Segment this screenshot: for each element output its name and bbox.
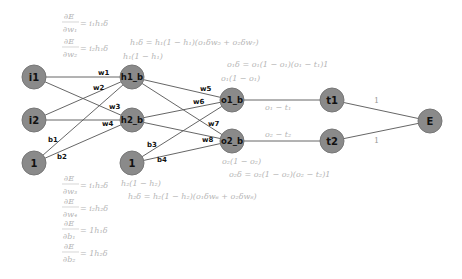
node-label: h1_b [121,72,143,82]
rhs: = i₁h₁δ [80,19,108,28]
formula-dE-db1: ∂E ∂b₁ = 1h₁δ [62,219,108,241]
label-b3: b3 [147,141,157,149]
numerator: ∂E [64,37,74,46]
rhs: = i₂h₁δ [80,44,108,53]
formula-o1-delta: o₁δ = o₁(1 − o₁)(o₁ − t₁)1 [227,60,328,69]
label-w6: w6 [193,98,204,106]
edge-t2-E [332,121,430,141]
denominator: ∂w₁ [63,25,77,34]
label-t2-E-weight: 1 [374,136,379,145]
rhs: = i₁h₂δ [80,181,108,190]
gradient-formulas-top: ∂E ∂w₁ = i₁h₁δ ∂E ∂w₂ = i₂h₁δ [62,12,108,59]
denominator: ∂w₃ [63,187,77,196]
denominator: ∂w₂ [63,50,77,59]
label-b2: b2 [57,153,67,161]
numerator: ∂E [64,197,74,206]
node-label: E [427,116,434,127]
label-w7: w7 [208,120,219,128]
edge-h1-o1 [132,77,232,100]
formula-o2-deriv: o₂(1 − o₂) [222,157,261,166]
denominator: ∂b₂ [63,255,75,264]
node-E: E [418,109,442,133]
network-diagram: w1 w2 w3 w4 b1 b2 w5 w6 w7 w8 b3 b4 o₁ −… [0,0,462,279]
formula-dE-dw1: ∂E ∂w₁ = i₁h₁δ [62,12,108,34]
node-label: 1 [129,158,136,169]
rhs: = 1h₁δ [80,226,108,235]
label-w8: w8 [202,136,213,144]
edge-h2-o1 [132,100,232,120]
label-t1-E-weight: 1 [374,96,379,105]
node-t2: t2 [320,129,344,153]
label-b1: b1 [48,136,58,144]
formula-dE-db2: ∂E ∂b₂ = 1h₂δ [62,242,108,264]
node-o2: o2_b [220,129,244,153]
denominator: ∂w₄ [63,210,77,219]
gradient-formulas-bottom: ∂E ∂w₃ = i₁h₂δ ∂E ∂w₄ = i₂h₂δ ∂E ∂b₁ = 1… [62,174,108,264]
formula-h1-deriv: h₁(1 − h₁) [123,52,163,61]
denominator: ∂b₁ [63,232,75,241]
node-label: i1 [29,72,39,83]
label-w3: w3 [109,103,120,111]
formula-dE-dw3: ∂E ∂w₃ = i₁h₂δ [62,174,108,196]
node-i1: i1 [22,65,46,89]
numerator: ∂E [64,174,74,183]
node-label: t2 [326,136,338,147]
node-h1: h1_b [120,65,144,89]
node-h2: h2_b [120,108,144,132]
formula-o2-delta: o₂δ = o₂(1 − o₂)(o₂ − t₂)1 [229,170,330,179]
rhs: = 1h₂δ [80,249,108,258]
node-label: i2 [29,115,39,126]
node-label: o1_b [221,95,243,105]
node-t1: t1 [320,88,344,112]
rhs: = i₂h₂δ [80,204,108,213]
edge-t1-E [332,100,430,121]
node-i2: i2 [22,108,46,132]
formula-h2-delta: h₂δ = h₂(1 − h₂)(o₁δw₆ + o₂δw₈) [128,192,257,201]
node-label: o2_b [221,136,243,146]
formula-h1-delta: h₁δ = h₁(1 − h₁)(o₁δw₅ + o₂δw₇) [130,38,259,47]
label-w2: w2 [93,84,104,92]
formula-o1-deriv: o₁(1 − o₁) [221,74,260,83]
node-label: t1 [326,95,338,106]
label-w1: w1 [98,69,109,77]
numerator: ∂E [64,12,74,21]
label-w5: w5 [200,85,211,93]
node-bias-1: 1 [22,151,46,175]
node-label: 1 [31,158,38,169]
node-label: h2_b [121,115,143,125]
label-b4: b4 [157,156,167,164]
label-w4: w4 [102,120,113,128]
formula-h2-deriv: h₂(1 − h₂) [121,179,161,188]
numerator: ∂E [64,242,74,251]
node-o1: o1_b [220,88,244,112]
label-o1-minus-t1: o₁ − t₁ [265,103,291,112]
formula-dE-dw2: ∂E ∂w₂ = i₂h₁δ [62,37,108,59]
numerator: ∂E [64,219,74,228]
node-bias-2: 1 [120,151,144,175]
formula-dE-dw4: ∂E ∂w₄ = i₂h₂δ [62,197,108,219]
label-o2-minus-t2: o₂ − t₂ [265,130,291,139]
